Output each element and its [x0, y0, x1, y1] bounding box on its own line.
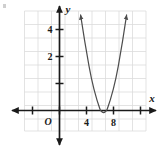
origin-label: O [44, 116, 51, 127]
grid-lines [25, 11, 147, 131]
y-tick-label-4: 4 [48, 24, 53, 35]
x-tick-label-8: 8 [111, 117, 116, 128]
graph-canvas: 4 8 2 4 O x y [0, 0, 168, 150]
y-tick-label-2: 2 [48, 51, 53, 62]
corner-artifact [3, 4, 6, 8]
parabola-curve [81, 15, 127, 113]
y-axis-label: y [64, 3, 71, 15]
x-tick-label-4: 4 [84, 117, 89, 128]
coordinate-graph-figure: 4 8 2 4 O x y [0, 0, 168, 150]
x-axis-label: x [148, 92, 155, 104]
